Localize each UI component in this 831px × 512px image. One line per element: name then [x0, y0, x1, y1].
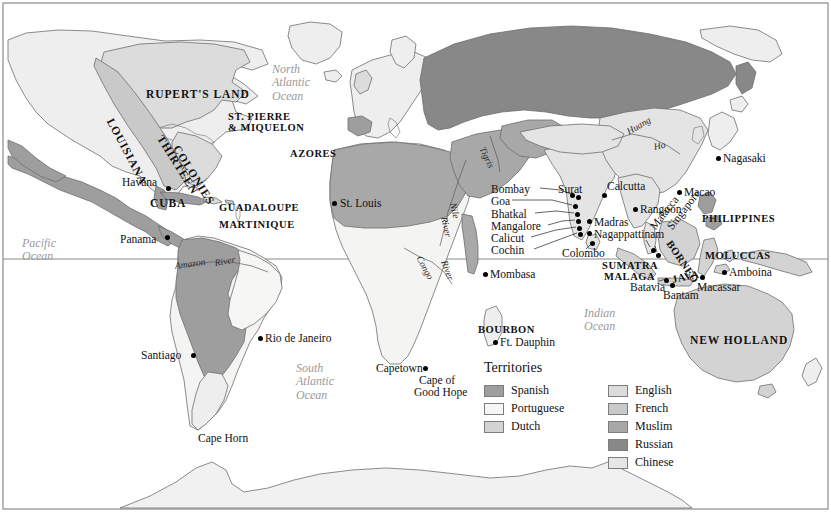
legend-row: English: [608, 382, 674, 399]
legend-label: French: [635, 401, 668, 416]
region-label: RUPERT'S LAND: [146, 88, 250, 100]
legend-swatch: [484, 385, 504, 397]
city-label: Mangalore: [491, 220, 541, 232]
city-marker-dot: [166, 186, 171, 191]
legend-row: Chinese: [608, 454, 674, 471]
city-label: Calcutta: [607, 180, 645, 192]
city-label: Good Hope: [414, 386, 467, 398]
map-legend: Territories SpanishPortugueseDutch Engli…: [484, 360, 542, 376]
legend-swatch: [608, 439, 628, 451]
city-label: Bantam: [663, 289, 699, 301]
city-label: Rio de Janeiro: [265, 332, 331, 344]
city-marker-dot: [570, 193, 575, 198]
city-label: Nagasaki: [723, 152, 766, 164]
city-marker-dot: [633, 207, 638, 212]
legend-row: Russian: [608, 436, 674, 453]
city-label: Santiago: [141, 349, 181, 361]
region-label: AZORES: [290, 148, 336, 159]
region-label: BOURBON: [478, 324, 535, 335]
city-marker-dot: [587, 219, 592, 224]
city-label: Havana: [122, 176, 157, 188]
region-label: NEW HOLLAND: [690, 334, 788, 346]
city-label: Ft. Dauphin: [500, 336, 555, 348]
city-marker-dot: [670, 283, 675, 288]
city-marker-dot: [423, 366, 428, 371]
city-marker-dot: [576, 219, 581, 224]
legend-column-left: SpanishPortugueseDutch: [484, 382, 564, 436]
city-label: Madras: [594, 216, 629, 228]
city-marker-dot: [493, 340, 498, 345]
legend-label: Portuguese: [511, 401, 564, 416]
city-label: Bombay: [491, 183, 530, 195]
city-marker-dot: [700, 275, 705, 280]
city-marker-dot: [576, 195, 581, 200]
city-marker-dot: [602, 193, 607, 198]
legend-swatch: [608, 385, 628, 397]
city-marker-dot: [722, 270, 727, 275]
legend-swatch: [608, 421, 628, 433]
legend-title: Territories: [484, 360, 542, 376]
city-marker-dot: [573, 204, 578, 209]
city-label: St. Louis: [340, 197, 382, 209]
legend-label: Dutch: [511, 419, 540, 434]
city-label: Goa: [491, 195, 510, 207]
city-label: Macassar: [697, 281, 740, 293]
city-label: Cape of: [419, 374, 455, 386]
city-marker-dot: [716, 156, 721, 161]
city-marker-dot: [165, 235, 170, 240]
city-marker-dot: [258, 336, 263, 341]
legend-label: Chinese: [635, 455, 674, 470]
region-label: & MIQUELON: [228, 122, 304, 133]
ocean-label: IndianOcean: [584, 307, 615, 334]
legend-label: Spanish: [511, 383, 549, 398]
city-marker-dot: [651, 248, 656, 253]
legend-row: French: [608, 400, 674, 417]
city-marker-dot: [664, 278, 669, 283]
legend-swatch: [484, 421, 504, 433]
world-map-figure: .coast{stroke:#6f6f6f;stroke-width:.8;st…: [0, 0, 831, 512]
city-label: Colombo: [562, 247, 605, 259]
legend-swatch: [608, 457, 628, 469]
ocean-label: PacificOcean: [22, 237, 56, 264]
region-label: MOLUCCAS: [705, 250, 771, 261]
city-marker-dot: [587, 231, 592, 236]
legend-swatch: [608, 403, 628, 415]
region-label: GUADALOUPE: [219, 202, 299, 213]
legend-column-right: EnglishFrenchMuslimRussianChinese: [608, 382, 674, 472]
city-label: Bhatkal: [491, 208, 527, 220]
city-marker-dot: [656, 253, 661, 258]
city-marker-dot: [191, 353, 196, 358]
ocean-label: SouthAtlanticOcean: [296, 362, 334, 402]
region-label: CUBA: [150, 197, 186, 209]
landmass-antarctica: [120, 462, 692, 508]
city-marker-dot: [578, 232, 583, 237]
ocean-label: NorthAtlanticOcean: [272, 63, 310, 103]
city-marker-dot: [590, 241, 595, 246]
region-label: SUMATRA: [602, 260, 658, 271]
city-label: Cape Horn: [198, 432, 248, 444]
legend-label: Muslim: [635, 419, 672, 434]
region-label: ST. PIERRE: [228, 111, 291, 122]
legend-swatch: [484, 403, 504, 415]
city-marker-dot: [483, 272, 488, 277]
city-label: Panama: [120, 233, 156, 245]
city-label: Calicut: [491, 232, 524, 244]
city-label: Capetown: [376, 362, 423, 374]
legend-label: Russian: [635, 437, 673, 452]
legend-row: Spanish: [484, 382, 564, 399]
region-label: MARTINIQUE: [219, 219, 295, 230]
city-label: Cochin: [491, 244, 524, 256]
legend-label: English: [635, 383, 672, 398]
city-label: Amboina: [729, 266, 772, 278]
legend-row: Muslim: [608, 418, 674, 435]
region-label: PHILIPPINES: [702, 213, 775, 224]
legend-row: Dutch: [484, 418, 564, 435]
city-marker-dot: [577, 226, 582, 231]
city-marker-dot: [332, 201, 337, 206]
city-label: Batavia: [630, 281, 665, 293]
city-marker-dot: [677, 190, 682, 195]
legend-row: Portuguese: [484, 400, 564, 417]
city-label: Mombasa: [490, 268, 535, 280]
city-marker-dot: [575, 212, 580, 217]
